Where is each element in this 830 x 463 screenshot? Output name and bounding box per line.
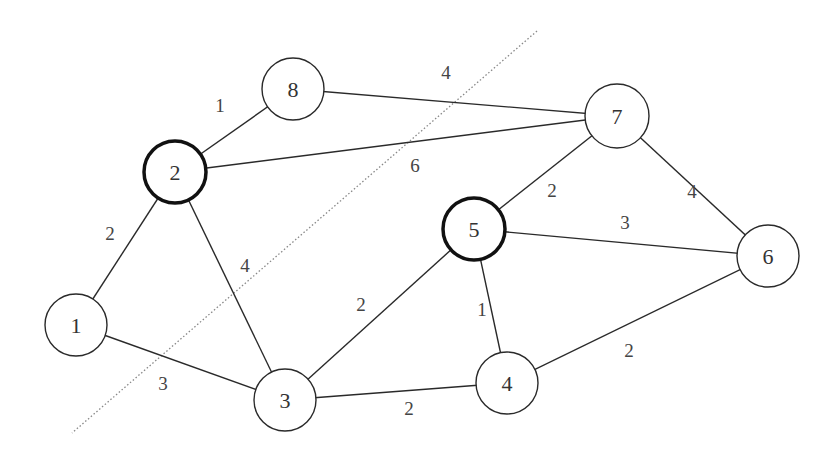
edge-weight-2-8: 1 bbox=[215, 95, 225, 116]
edge-3-5 bbox=[285, 229, 474, 400]
edge-8-7 bbox=[293, 89, 617, 116]
node-4: 4 bbox=[476, 352, 538, 414]
edge-weight-8-7: 4 bbox=[441, 62, 451, 83]
edge-weight-5-4: 1 bbox=[477, 299, 487, 320]
node-label: 1 bbox=[71, 313, 82, 338]
edge-weight-4-6: 2 bbox=[624, 340, 634, 361]
node-8: 8 bbox=[262, 58, 324, 120]
edge-weight-2-3: 4 bbox=[240, 255, 250, 276]
graph-diagram: 1462432212342 12345678 bbox=[0, 0, 830, 463]
node-label: 5 bbox=[469, 217, 480, 242]
edges-layer bbox=[76, 89, 768, 400]
node-3: 3 bbox=[254, 369, 316, 431]
node-7: 7 bbox=[585, 84, 649, 148]
node-5: 5 bbox=[443, 198, 505, 260]
edge-3-4 bbox=[285, 383, 507, 400]
node-label: 8 bbox=[288, 77, 299, 102]
edge-weight-2-7: 6 bbox=[410, 155, 420, 176]
edge-2-7 bbox=[175, 116, 617, 172]
node-label: 7 bbox=[612, 104, 623, 129]
edge-5-6 bbox=[474, 229, 768, 256]
node-label: 2 bbox=[170, 160, 181, 185]
node-label: 4 bbox=[502, 371, 513, 396]
node-2: 2 bbox=[144, 141, 206, 203]
graph-canvas: 1462432212342 12345678 bbox=[0, 0, 830, 463]
edge-weight-7-6: 4 bbox=[687, 181, 697, 202]
node-6: 6 bbox=[737, 225, 799, 287]
edge-weight-3-5: 2 bbox=[356, 294, 366, 315]
edge-weight-1-3: 3 bbox=[158, 373, 168, 394]
edge-4-6 bbox=[507, 256, 768, 383]
node-label: 3 bbox=[280, 388, 291, 413]
edge-weight-3-4: 2 bbox=[404, 398, 414, 419]
node-label: 6 bbox=[763, 244, 774, 269]
edge-weight-7-5: 2 bbox=[547, 180, 557, 201]
edge-weight-5-6: 3 bbox=[620, 212, 630, 233]
edge-weight-1-2: 2 bbox=[105, 223, 115, 244]
node-1: 1 bbox=[45, 294, 107, 356]
